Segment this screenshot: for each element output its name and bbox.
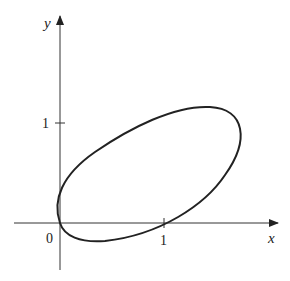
ellipse-curve (57, 107, 240, 241)
y-axis-label: y (42, 15, 51, 31)
origin-label: 0 (46, 231, 53, 246)
y-tick-label: 1 (42, 116, 49, 131)
figure: y x 0 1 1 (0, 0, 290, 281)
x-axis-label: x (267, 230, 275, 246)
x-tick-label: 1 (160, 233, 167, 248)
